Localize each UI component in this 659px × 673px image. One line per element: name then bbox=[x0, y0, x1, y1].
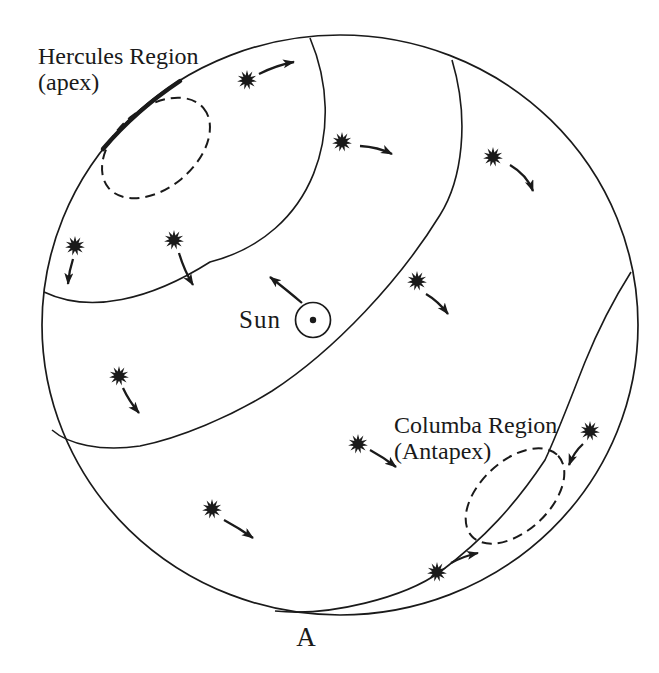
star-icon bbox=[237, 70, 257, 90]
proper-motion-arrow bbox=[569, 444, 583, 465]
star-icon bbox=[109, 366, 129, 386]
proper-motion-arrow bbox=[426, 294, 448, 314]
star-icon bbox=[580, 421, 600, 441]
star-icon bbox=[65, 236, 85, 256]
mid-great-circle-arc bbox=[52, 60, 462, 448]
hercules-region-label-line2: (apex) bbox=[38, 69, 99, 95]
stars-group bbox=[65, 62, 600, 582]
proper-motion-arrow bbox=[179, 253, 193, 285]
proper-motion-arrow bbox=[360, 146, 392, 154]
columba-region-label-line1: Columba Region bbox=[394, 412, 557, 438]
star-icon bbox=[332, 132, 352, 152]
sun-label: Sun bbox=[239, 306, 281, 333]
sun-dot-icon bbox=[310, 317, 316, 323]
hercules-region-label-line1: Hercules Region bbox=[38, 43, 199, 69]
proper-motion-arrow bbox=[224, 520, 253, 538]
star-icon bbox=[202, 499, 222, 519]
panel-letter-label: A bbox=[296, 622, 316, 652]
columba-region-label-line2: (Antapex) bbox=[394, 438, 491, 464]
proper-motion-arrow bbox=[510, 165, 533, 191]
star-icon bbox=[348, 434, 368, 454]
apex-limb-overlap-segment bbox=[103, 81, 180, 149]
proper-motion-arrow bbox=[259, 62, 294, 74]
star-icon bbox=[483, 147, 503, 167]
proper-motion-arrow bbox=[123, 388, 139, 413]
proper-motion-arrow bbox=[68, 259, 73, 284]
star-icon bbox=[164, 230, 184, 250]
star-icon bbox=[407, 271, 427, 291]
proper-motion-arrow bbox=[451, 553, 478, 563]
sun-motion-arrow bbox=[270, 277, 302, 303]
proper-motion-arrow bbox=[370, 450, 396, 467]
book-figure-page: Hercules Region (apex) Sun Columba Regio… bbox=[0, 0, 659, 673]
celestial-sphere-figure: Hercules Region (apex) Sun Columba Regio… bbox=[0, 0, 659, 673]
